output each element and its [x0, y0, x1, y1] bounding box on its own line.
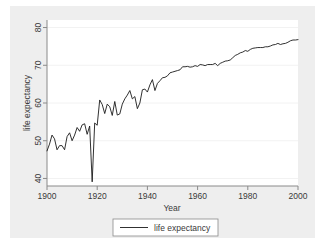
- legend-entry-label: life expectancy: [154, 223, 211, 233]
- x-tick-label: 1960: [188, 191, 207, 201]
- x-tick-label: 1920: [88, 191, 107, 201]
- x-axis-title: Year: [163, 203, 180, 213]
- line-chart: 4050607080 190019201940196019802000 life…: [0, 0, 325, 250]
- y-axis-title: life expectancy: [22, 74, 32, 131]
- x-tick-label: 2000: [289, 191, 308, 201]
- y-tick-label: 50: [33, 136, 43, 146]
- x-axis-ticks: 190019201940196019802000: [38, 186, 308, 201]
- y-tick-label: 40: [33, 173, 43, 183]
- x-tick-label: 1940: [138, 191, 157, 201]
- y-axis-ticks: 4050607080: [33, 23, 47, 184]
- x-tick-label: 1900: [38, 191, 57, 201]
- x-tick-label: 1980: [238, 191, 257, 201]
- y-tick-label: 70: [33, 60, 43, 70]
- y-tick-label: 60: [33, 98, 43, 108]
- y-tick-label: 80: [33, 23, 43, 33]
- chart-figure: 4050607080 190019201940196019802000 life…: [0, 0, 325, 250]
- chart-legend: life expectancy: [113, 219, 218, 236]
